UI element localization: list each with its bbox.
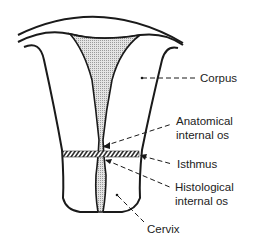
isthmus-band — [63, 151, 139, 157]
label-histological-os-1: Histological — [175, 181, 234, 194]
label-anatomical-os-2: internal os — [176, 129, 229, 142]
left-outer-wall — [24, 45, 98, 212]
uterine-cavity — [70, 34, 140, 212]
label-corpus: Corpus — [200, 72, 237, 85]
isthmus-leader — [142, 156, 172, 164]
anatomical-os-leader — [104, 124, 172, 146]
label-cervix: Cervix — [147, 223, 180, 236]
label-histological-os-2: internal os — [175, 195, 228, 208]
label-isthmus: Isthmus — [177, 158, 217, 171]
label-anatomical-os-1: Anatomical — [176, 115, 233, 128]
